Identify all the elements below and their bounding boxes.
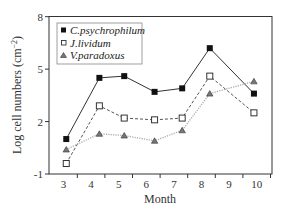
x-tick-label: 6 [144, 178, 150, 190]
open-square-marker-icon [251, 110, 257, 116]
y-axis-title: Log cell numbers (cm−2) [10, 36, 24, 154]
legend-label-j-lividum: J.lividum [70, 37, 111, 49]
filled-square-marker-icon [63, 136, 69, 142]
open-square-marker-icon [121, 115, 127, 121]
triangle-marker-icon [121, 133, 127, 139]
triangle-marker-icon [63, 147, 69, 153]
legend: C.psychrophilum J.lividum V.paradoxus [57, 23, 145, 64]
x-tick-label: 3 [61, 178, 67, 190]
x-tick-label: 7 [171, 178, 177, 190]
open-square-marker-icon [152, 117, 158, 123]
y-tick-label: -1 [34, 168, 43, 180]
line-chart: -1258 345678910 Log cell numbers (cm−2) … [0, 0, 283, 215]
open-square-marker-icon [179, 115, 185, 121]
x-axis-title: Month [144, 192, 176, 206]
filled-square-marker-icon [61, 28, 66, 33]
filled-square-marker-icon [251, 91, 257, 97]
x-axis: 345678910 [61, 174, 271, 190]
open-square-marker-icon [62, 41, 67, 46]
x-tick-label: 5 [116, 178, 122, 190]
series-line-j-lividum [66, 76, 254, 163]
legend-label-v-paradoxus: V.paradoxus [70, 49, 125, 61]
open-square-marker-icon [207, 73, 213, 79]
triangle-marker-icon [207, 91, 213, 97]
y-axis: -1258 [34, 11, 49, 180]
x-tick-label: 10 [251, 178, 263, 190]
y-tick-label: 2 [38, 116, 44, 128]
filled-square-marker-icon [207, 45, 213, 51]
filled-square-marker-icon [96, 75, 102, 81]
open-square-marker-icon [96, 103, 102, 109]
filled-square-marker-icon [152, 89, 158, 95]
legend-label-c-psychrophilum: C.psychrophilum [70, 24, 145, 36]
x-tick-label: 4 [88, 178, 94, 190]
x-tick-label: 8 [199, 178, 205, 190]
y-tick-label: 5 [38, 63, 44, 75]
open-square-marker-icon [63, 161, 69, 167]
x-tick-label: 9 [226, 178, 232, 190]
y-tick-label: 8 [38, 11, 44, 23]
triangle-marker-icon [251, 78, 257, 84]
filled-square-marker-icon [179, 85, 185, 91]
filled-square-marker-icon [121, 73, 127, 79]
